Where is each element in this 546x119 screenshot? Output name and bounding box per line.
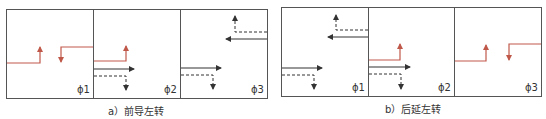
figure-a-caption: a）前导左转 — [108, 103, 164, 118]
phase-b2-movements — [369, 44, 410, 89]
left-turn-eastbound-arrow-icon — [369, 44, 400, 60]
right-turn-eastbound-arrow-icon — [369, 74, 401, 89]
phase-label-a1: ϕ1 — [77, 84, 90, 95]
figure-b-frame — [282, 8, 542, 97]
figure-a-leading-left-turn — [7, 10, 268, 99]
phase-a2-movements — [94, 46, 134, 90]
left-turn-westbound-arrow-icon — [509, 44, 541, 60]
right-turn-eastbound-arrow-icon — [181, 75, 213, 89]
left-turn-westbound-arrow-icon — [61, 47, 93, 62]
phase-b1-movements — [282, 15, 368, 89]
figure-b-caption: b）后延左转 — [385, 101, 441, 116]
phase-label-a3: ϕ3 — [251, 84, 264, 95]
left-turn-eastbound-arrow-icon — [7, 47, 40, 63]
right-turn-westbound-arrow-icon — [336, 15, 368, 30]
left-turn-eastbound-arrow-icon — [94, 46, 126, 61]
phase-diagram — [0, 0, 546, 119]
right-turn-eastbound-arrow-icon — [282, 75, 314, 89]
figure-b-lagging-left-turn — [282, 8, 542, 97]
phase-label-a2: ϕ2 — [164, 84, 177, 95]
left-turn-eastbound-arrow-icon — [455, 45, 486, 61]
phase-label-b2: ϕ2 — [438, 82, 451, 93]
phase-label-b1: ϕ1 — [352, 82, 365, 93]
phase-label-b3: ϕ3 — [525, 82, 538, 93]
right-turn-eastbound-arrow-icon — [94, 76, 126, 90]
figure-a-frame — [7, 10, 268, 99]
phase-a3-movements — [181, 16, 267, 89]
right-turn-westbound-arrow-icon — [235, 16, 267, 32]
phase-b3-movements — [455, 44, 541, 61]
phase-a1-movements — [7, 47, 93, 63]
